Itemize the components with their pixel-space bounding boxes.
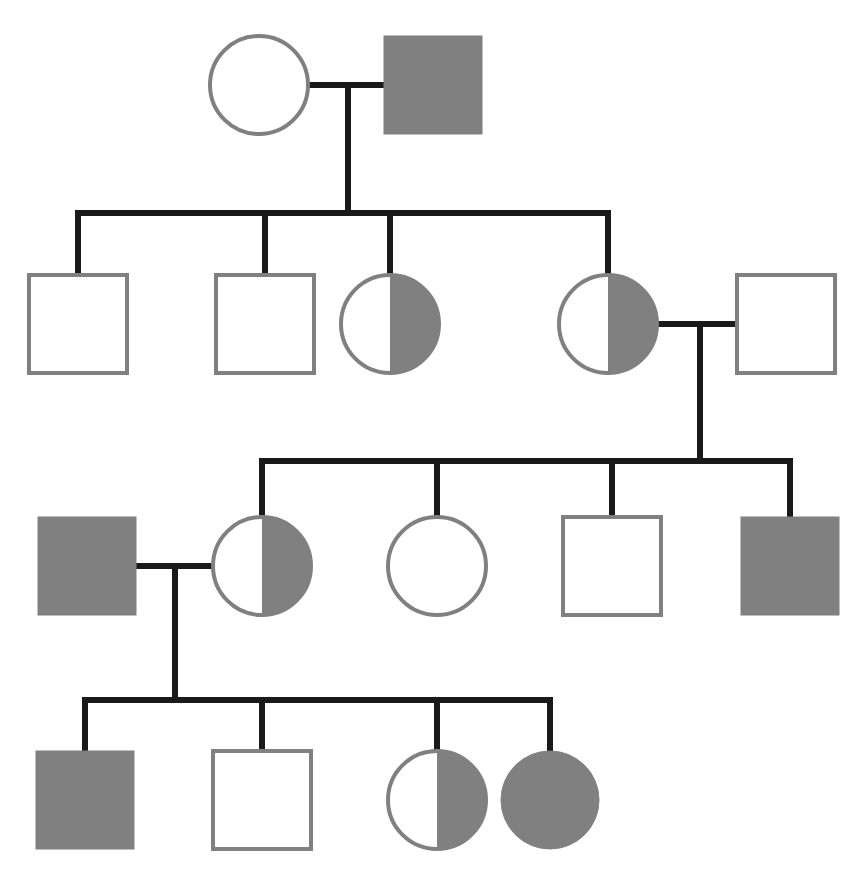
individual-IV-2[interactable]: [213, 751, 311, 849]
symbol-square-open-III-4[interactable]: [563, 517, 661, 615]
symbol-circle-halffill-II-3: [390, 275, 439, 373]
symbol-square-open-II-2[interactable]: [216, 275, 314, 373]
individual-III-1[interactable]: [38, 517, 136, 615]
mating-I: [308, 85, 384, 213]
symbol-circle-halffill-III-2: [262, 517, 311, 615]
individual-II-5[interactable]: [737, 275, 835, 373]
sibship-IV: [85, 700, 550, 751]
symbol-square-open-IV-2[interactable]: [213, 751, 311, 849]
sibship-II: [78, 213, 608, 275]
pedigree-chart: [0, 0, 863, 891]
mating-III: [136, 566, 213, 700]
symbol-circle-open-III-3[interactable]: [388, 517, 486, 615]
pedigree-canvas: [0, 0, 863, 891]
sibship-III: [262, 461, 790, 517]
individual-II-3[interactable]: [341, 275, 439, 373]
individual-II-1[interactable]: [29, 275, 127, 373]
symbol-circle-halffill-II-4: [608, 275, 657, 373]
connector-lines-layer: [78, 85, 790, 751]
symbol-square-open-II-5[interactable]: [737, 275, 835, 373]
individual-I-1[interactable]: [210, 36, 308, 134]
individual-III-3[interactable]: [388, 517, 486, 615]
individual-III-2[interactable]: [213, 517, 311, 615]
symbol-square-filled-I-2[interactable]: [384, 36, 482, 134]
symbol-square-open-II-1[interactable]: [29, 275, 127, 373]
individual-III-5[interactable]: [741, 517, 839, 615]
individual-III-4[interactable]: [563, 517, 661, 615]
symbol-circle-filled-IV-4[interactable]: [501, 751, 599, 849]
symbol-square-filled-III-5[interactable]: [741, 517, 839, 615]
symbol-circle-open-I-1[interactable]: [210, 36, 308, 134]
symbol-square-filled-III-1[interactable]: [38, 517, 136, 615]
individual-IV-1[interactable]: [36, 751, 134, 849]
individual-II-4[interactable]: [559, 275, 657, 373]
individual-IV-3[interactable]: [388, 751, 486, 849]
symbol-circle-halffill-IV-3: [437, 751, 486, 849]
individual-I-2[interactable]: [384, 36, 482, 134]
mating-II: [657, 324, 737, 461]
symbol-square-filled-IV-1[interactable]: [36, 751, 134, 849]
individual-II-2[interactable]: [216, 275, 314, 373]
individual-IV-4[interactable]: [501, 751, 599, 849]
